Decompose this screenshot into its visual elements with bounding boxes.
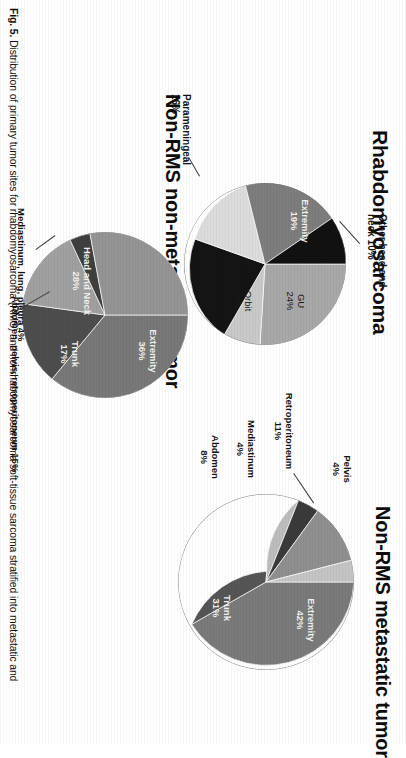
callout-retroperitoneum: Retroperitoneum 11% [273, 386, 294, 476]
callout-line-1: Mediastinum [246, 420, 257, 478]
slice-label-value: 9% [232, 294, 243, 308]
figure-caption-label: Fig. 5. [8, 8, 19, 37]
callout-mediastinum: Mediastinum 4% [235, 412, 256, 486]
slice-label-value: 17% [59, 344, 70, 363]
slice-label-value: 28% [71, 271, 82, 290]
callout-pelvis: Pelvis 4% [331, 442, 352, 496]
slice-label-head-and-neck: Head and Neck 28% [71, 242, 92, 320]
chart-non-rms-non-metastatic: Non-RMS non-metastatic tumor [0, 80, 206, 410]
callout-line-1: Pelvis [342, 455, 353, 482]
slice-label-name: Extremity [148, 329, 159, 372]
slice-label-value: 42% [295, 610, 306, 629]
slice-label-value: 24% [285, 291, 296, 310]
slice-label-value: 31% [211, 598, 222, 617]
pie-canvas-non-rms-metastatic [178, 494, 354, 670]
slice-label-trunk: Trunk 17% [59, 330, 80, 378]
slice-label-gu: GU 24% [285, 279, 306, 323]
pie-non-rms-non-metastatic: Extremity 36% Trunk 17% Head and Neck 28… [22, 232, 188, 398]
callout-line-1: Retroperitoneum [284, 393, 295, 470]
slice-label-name: Extremity [300, 199, 311, 242]
callout-line-3: 10% [366, 240, 377, 260]
slice-label-name: GU [296, 294, 307, 308]
callout-line-1: Other head and [377, 214, 388, 287]
figure-caption-text: Distribution of primary tumor sites for … [8, 40, 19, 681]
pie-rhabdomyosarcoma: Extremity 19% GU 24% Orbit 9% [184, 183, 346, 345]
chart-title-non-rms-metastatic: Non-RMS metastatic tumor [371, 506, 394, 758]
figure-caption: Fig. 5. Distribution of primary tumor si… [7, 8, 20, 681]
slice-label-name: Trunk [70, 341, 81, 367]
slice-label-value: 36% [137, 341, 148, 360]
callout-line-2: 4% [331, 462, 342, 476]
callout-line-2: 4% [235, 442, 246, 456]
slice-label-extremity: Extremity 42% [295, 586, 316, 654]
callout-line-2: 11% [273, 422, 284, 441]
callout-abdomen: Abdomen 8% [199, 426, 220, 488]
slice-label-name: Orbit [243, 291, 254, 312]
callout-line-1: Abdomen [210, 435, 221, 479]
slice-label-name: Extremity [306, 598, 317, 641]
pie-canvas-rhabdomyosarcoma [184, 183, 346, 345]
callout-line-2: neck [366, 214, 377, 237]
slice-label-name: Trunk [222, 595, 233, 621]
callout-other-head-and-neck: Other head and neck 10% [366, 214, 388, 314]
slice-label-name: Head and Neck [82, 247, 93, 315]
slice-label-orbit: Orbit 9% [232, 279, 253, 323]
slice-label-trunk: Trunk 31% [211, 582, 232, 634]
slice-label-extremity: Extremity 36% [137, 318, 158, 384]
callout-line-2: 8% [199, 450, 210, 464]
slice-label-value: 19% [289, 211, 300, 230]
pie-canvas-non-rms-non-metastatic [22, 232, 188, 398]
pie-non-rms-metastatic: Extremity 42% Trunk 31% [178, 494, 354, 670]
slice-label-extremity: Extremity 19% [289, 189, 310, 253]
